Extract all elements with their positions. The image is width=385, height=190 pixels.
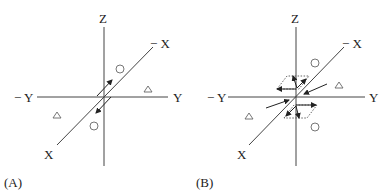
label-neg-x: − X [150, 36, 171, 51]
panel-caption-b: (B) [196, 175, 213, 190]
circle-symbol [116, 65, 124, 73]
label-x: X [44, 147, 54, 162]
label-z: Z [99, 11, 107, 26]
label-neg-y: − Y [14, 90, 34, 105]
diagram-canvas: Z − X − Y Y X (A) Z − X − Y Y X (B) [0, 0, 385, 190]
label-y: Y [173, 90, 183, 105]
arrow-upper-diag [297, 79, 306, 88]
arrow-lower-diag [286, 106, 296, 116]
triangle-symbol [144, 86, 152, 92]
upper-parallelogram [277, 76, 309, 89]
triangle-symbol [53, 112, 61, 118]
circle-symbol [311, 123, 319, 131]
label-x: X [237, 147, 247, 162]
panel-a: Z − X − Y Y X (A) [4, 11, 183, 190]
circle-symbol [311, 59, 319, 67]
label-neg-y: − Y [207, 90, 227, 105]
label-y: Y [369, 90, 379, 105]
triangle-symbol [245, 113, 253, 119]
x-axis [57, 47, 153, 145]
panel-caption-a: (A) [4, 175, 22, 190]
label-z: Z [291, 11, 299, 26]
panel-b: Z − X − Y Y X (B) [196, 11, 379, 190]
lower-parallelogram [284, 105, 317, 118]
arrow-inward-right [304, 84, 327, 94]
circle-symbol [90, 122, 98, 130]
label-neg-x: − X [342, 36, 363, 51]
triangle-symbol [335, 82, 343, 88]
